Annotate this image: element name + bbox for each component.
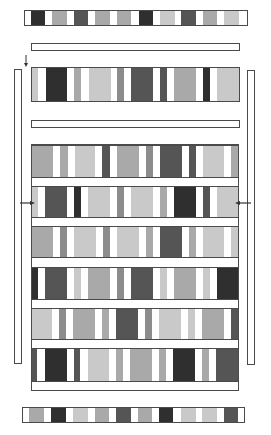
top-color-strip-stripe — [88, 11, 95, 25]
grid-row-6-stripe — [216, 349, 238, 381]
top-color-strip — [24, 10, 248, 26]
grid-row-1-stripe — [160, 146, 182, 177]
bottom-color-strip-stripe — [217, 408, 224, 422]
grid-row-3-stripe — [60, 227, 67, 257]
grid-row-5-stripe — [73, 309, 95, 339]
grid-row-4-stripe — [167, 268, 174, 299]
grid-row-2-stripe — [174, 187, 196, 217]
grid-row-5-stripe — [66, 309, 73, 339]
grid-row-1-stripe — [153, 146, 160, 177]
grid-row-3-stripe — [160, 227, 182, 257]
single-color-band-stripe — [174, 68, 196, 101]
bottom-color-strip-stripe — [29, 408, 44, 422]
grid-row-3-stripe — [117, 227, 139, 257]
grid-row-3-stripe — [146, 227, 153, 257]
grid-row-6-stripe — [152, 349, 159, 381]
grid-row-1-stripe — [68, 146, 75, 177]
grid-row-4-stripe — [210, 268, 217, 299]
grid-row-6-stripe — [195, 349, 202, 381]
grid-row-5-stripe — [159, 309, 181, 339]
grid-row-3-stripe — [231, 227, 238, 257]
grid-row-1-stripe — [53, 146, 60, 177]
bottom-color-strip-stripe — [152, 408, 159, 422]
grid-row-6-stripe — [37, 349, 45, 381]
grid-row-2-stripe — [74, 187, 81, 217]
top-color-strip-stripe — [110, 11, 117, 25]
grid-row-4-stripe — [38, 268, 45, 299]
grid-row-1-stripe — [95, 146, 102, 177]
grid-row-3-stripe — [182, 227, 189, 257]
grid-row-4-stripe — [124, 268, 131, 299]
grid-row-3-stripe — [53, 227, 60, 257]
grid-row-3-stripe — [196, 227, 203, 257]
single-color-band-stripe — [67, 68, 74, 101]
bottom-color-strip-stripe — [109, 408, 116, 422]
grid-row-3-stripe — [74, 227, 96, 257]
grid-row-5-stripe — [202, 309, 224, 339]
grid-row-3-stripe — [32, 227, 53, 257]
grid-row-6-stripe — [166, 349, 173, 381]
grid-row-4-stripe — [81, 268, 88, 299]
top-color-strip-stripe — [203, 11, 217, 25]
grid-row-5-stripe — [138, 309, 145, 339]
grid-row-2-stripe — [153, 187, 160, 217]
grid-row-4-stripe — [217, 268, 238, 299]
grid-row-4-stripe — [131, 268, 153, 299]
grid-row-5-stripe — [59, 309, 66, 339]
grid-row-5-stripe — [32, 309, 52, 339]
grid-row-3-stripe — [224, 227, 231, 257]
top-color-strip-stripe — [131, 11, 139, 25]
top-color-strip-stripe — [95, 11, 110, 25]
grid-row-2-stripe — [167, 187, 174, 217]
single-color-band-stripe — [46, 68, 67, 101]
grid-row-3-stripe — [103, 227, 110, 257]
single-color-band — [31, 67, 240, 102]
single-color-band-stripe — [153, 68, 160, 101]
grid-row-2-stripe — [38, 187, 45, 217]
top-color-strip-stripe — [160, 11, 175, 25]
top-color-strip-stripe — [117, 11, 131, 25]
top-color-strip-stripe — [67, 11, 74, 25]
grid-row-6-stripe — [88, 349, 109, 381]
grid-row-3-stripe — [110, 227, 117, 257]
top-color-strip-stripe — [153, 11, 160, 25]
bottom-color-strip-stripe — [138, 408, 152, 422]
grid-row-2-stripe — [203, 187, 210, 217]
grid-row-4-stripe — [196, 268, 203, 299]
top-color-strip-stripe — [239, 11, 248, 25]
grid-row-1-stripe — [189, 146, 196, 177]
bottom-color-strip-stripe — [224, 408, 238, 422]
grid-row-4 — [32, 267, 238, 300]
separator-bar-1 — [31, 43, 240, 51]
top-color-strip-stripe — [45, 11, 52, 25]
grid-row-3-stripe — [96, 227, 103, 257]
grid-row-4-stripe — [45, 268, 67, 299]
grid-row-2-stripe — [81, 187, 88, 217]
grid-row-1-stripe — [146, 146, 153, 177]
right-vertical-bar — [247, 70, 255, 365]
grid-row-4-stripe — [110, 268, 117, 299]
grid-row-1-stripe — [60, 146, 68, 177]
grid-row-2-stripe — [117, 187, 124, 217]
grid-row-6-stripe — [123, 349, 130, 381]
grid-row-6-stripe — [130, 349, 152, 381]
grid-row-1-stripe — [203, 146, 224, 177]
bottom-color-strip-stripe — [88, 408, 95, 422]
grid-row-4-stripe — [153, 268, 160, 299]
top-color-strip-stripe — [74, 11, 88, 25]
grid-row-4-stripe — [74, 268, 81, 299]
top-color-strip-stripe — [196, 11, 203, 25]
grid-row-6 — [32, 348, 238, 382]
grid-row-1-stripe — [231, 146, 238, 177]
grid-row-1-stripe — [139, 146, 146, 177]
bottom-color-strip-stripe — [202, 408, 217, 422]
bottom-color-strip-stripe — [51, 408, 66, 422]
bottom-color-strip — [22, 407, 245, 423]
grid-row-2-stripe — [131, 187, 153, 217]
grid-row-1 — [32, 145, 238, 178]
top-color-strip-stripe — [24, 11, 31, 25]
grid-row-5-stripe — [95, 309, 102, 339]
grid-row-4-stripe — [174, 268, 196, 299]
top-color-strip-stripe — [52, 11, 67, 25]
single-color-band-stripe — [131, 68, 153, 101]
